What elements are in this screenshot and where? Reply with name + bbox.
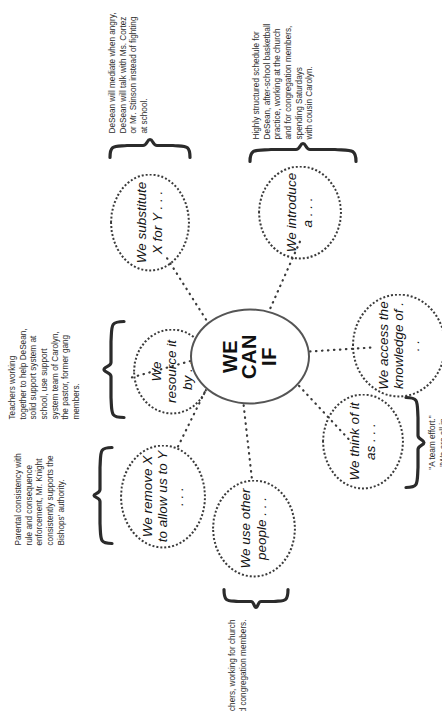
note-resource: Teachers working together to help DeSean… [8, 311, 83, 419]
brace-substitute [108, 137, 192, 159]
diagram-canvas: WE CAN IF We remove X to allow us to Y .… [0, 0, 442, 711]
bubble-introduce[interactable]: We introduce a . . . [258, 165, 342, 259]
connector-use-other-people [243, 399, 252, 479]
note-remove: Parental consistency with rule and conse… [14, 439, 67, 545]
bubble-substitute[interactable]: We substitute X for Y . . . [110, 173, 190, 271]
hub-we-can-if: WE CAN IF [190, 308, 310, 404]
brace-use-other-people [222, 587, 290, 609]
bubble-use-other-people-label: We use other people . . . [238, 481, 269, 575]
brace-think-of-it-as [404, 395, 426, 489]
bubble-remove-label: We remove X to allow us to Y . . . [140, 446, 187, 546]
note-think-of-it-as: "A team effort." "We are all in this tog… [428, 387, 442, 497]
note-introduce: Highly structured schedule for DeSean, a… [252, 0, 316, 139]
note-substitute: DeSean will mediate when angry, DeSean w… [108, 5, 151, 133]
brace-remove [92, 445, 114, 545]
bubble-use-other-people[interactable]: We use other people . . . [212, 479, 296, 577]
bubble-resource-label: We resource it by . . . [149, 330, 196, 412]
note-use-other-people: DeSean's teachers, working for church li… [228, 619, 249, 711]
bubble-think-of-it-as-label: We think of it as . . . [347, 395, 378, 487]
connector-substitute [166, 256, 206, 319]
bubble-access-knowledge[interactable]: We access the knowledge of . . . [352, 293, 442, 397]
bubble-access-knowledge-label: We access the knowledge of . . . [376, 295, 423, 395]
diagram-layer: WE CAN IF We remove X to allow us to Y .… [0, 0, 442, 711]
hub-line-2: CAN [240, 334, 260, 379]
bubble-remove[interactable]: We remove X to allow us to Y . . . [120, 444, 206, 548]
bubble-substitute-label: We substitute X for Y . . . [134, 175, 165, 269]
hub-line-3: IF [260, 347, 280, 366]
bubble-think-of-it-as[interactable]: We think of it as . . . [322, 393, 404, 489]
brace-resource [102, 319, 126, 419]
brace-introduce [248, 141, 358, 163]
bubble-introduce-label: We introduce a . . . [284, 167, 315, 257]
